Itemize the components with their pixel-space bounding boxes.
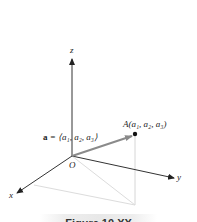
point-a-label: A(a₁, a₂, a₃) [123,120,166,129]
x-axis-label: x [9,191,13,200]
figure-caption: Figure 10.XX [40,214,157,222]
projection-lines [34,136,135,205]
origin-label: O [69,161,76,170]
origin-to-foot-line [72,156,135,205]
y-axis [72,156,174,178]
vector-a-components: = ⟨a₁, a₂, a₃⟩ [48,132,98,142]
vector-a-label: a = ⟨a₁, a₂, a₃⟩ [43,133,98,142]
z-axis-label: z [70,46,74,55]
y-axis-label: y [177,173,181,182]
x-foot-line [34,185,135,205]
coordinate-diagram [0,0,197,222]
point-a-dot [133,132,137,136]
